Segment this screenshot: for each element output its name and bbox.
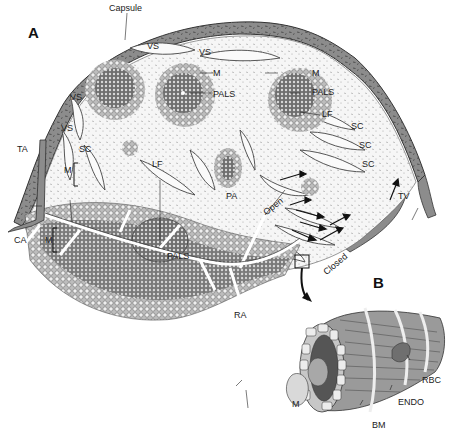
label-sc-2: SC — [359, 141, 372, 150]
label-ra: RA — [234, 311, 247, 320]
spleen-illustration — [0, 0, 466, 436]
label-vs-1: VS — [147, 42, 159, 51]
follicle-3 — [268, 68, 332, 132]
label-m-2: M — [312, 69, 320, 78]
label-ca: CA — [14, 236, 27, 245]
panel-label-a: A — [28, 25, 39, 40]
label-capsule: Capsule — [109, 4, 142, 13]
label-lf-2: LF — [152, 160, 163, 169]
label-bm: BM — [372, 421, 386, 430]
label-sc-1: SC — [351, 122, 364, 131]
label-m-3: M — [64, 166, 72, 175]
label-m-b: M — [292, 400, 300, 409]
label-m-1: M — [213, 69, 221, 78]
label-pals-2: PALS — [312, 88, 334, 97]
label-sc-4: SC — [79, 145, 92, 154]
label-vs-3: VS — [70, 93, 82, 102]
follicle-2 — [155, 63, 215, 127]
label-pa: PA — [226, 192, 237, 201]
label-endo: ENDO — [398, 398, 424, 407]
label-ta: TA — [17, 145, 28, 154]
label-tv: TV — [398, 192, 410, 201]
label-sc-3: SC — [362, 160, 375, 169]
spleen-diagram: A B Capsule VS VS VS VS M PALS M PALS LF… — [0, 0, 466, 436]
label-vs-2: VS — [199, 48, 211, 57]
label-vs-4: VS — [61, 124, 73, 133]
label-pals-3: PALS — [167, 252, 189, 261]
panel-label-b: B — [373, 275, 384, 290]
label-pals-1: PALS — [213, 90, 235, 99]
label-m-4: M — [45, 236, 53, 245]
follicle-1 — [85, 60, 145, 120]
label-lf-1: LF — [322, 110, 333, 119]
label-rbc: RBC — [422, 376, 441, 385]
